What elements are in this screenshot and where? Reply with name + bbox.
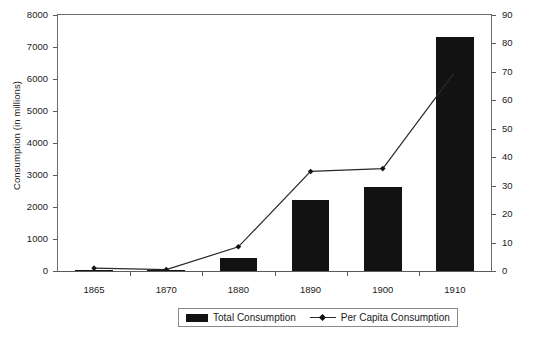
y-axis-left-tick-label: 3000	[8, 170, 48, 180]
y-axis-right-tick-mark	[492, 15, 496, 16]
y-axis-right-tick-label: 90	[502, 10, 542, 20]
bar-swatch-icon	[186, 314, 208, 322]
y-axis-right-tick-mark	[492, 243, 496, 244]
y-axis-right-tick-mark	[492, 157, 496, 158]
x-axis-tick-label: 1910	[425, 284, 485, 295]
y-axis-right-tick-mark	[492, 43, 496, 44]
y-axis-right-tick-label: 80	[502, 38, 542, 48]
chart-legend: Total Consumption Per Capita Consumption	[178, 308, 458, 327]
x-axis-tick-mark	[419, 272, 420, 276]
y-axis-left-tick-label: 2000	[8, 202, 48, 212]
y-axis-right-tick-mark	[492, 100, 496, 101]
y-axis-left-tick-label: 1000	[8, 234, 48, 244]
x-axis-tick-mark	[202, 272, 203, 276]
y-axis-right-tick-mark	[492, 186, 496, 187]
x-axis-tick-label: 1890	[281, 284, 341, 295]
legend-label-total-consumption: Total Consumption	[213, 312, 296, 323]
per-capita-markers	[91, 69, 457, 271]
y-axis-right-tick-mark	[492, 72, 496, 73]
legend-label-per-capita-consumption: Per Capita Consumption	[341, 312, 450, 323]
y-axis-left-tick-label: 6000	[8, 74, 48, 84]
y-axis-left-tick-label: 8000	[8, 10, 48, 20]
y-axis-right-tick-label: 10	[502, 238, 542, 248]
y-axis-left-tick-label: 7000	[8, 42, 48, 52]
chart-container: Consumption (in millions) 01000200030004…	[0, 0, 550, 341]
x-axis-tick-mark	[275, 272, 276, 276]
line-data-point-marker	[91, 265, 97, 271]
x-axis-tick-label: 1880	[208, 284, 268, 295]
per-capita-line	[94, 72, 455, 270]
x-axis-tick-mark	[347, 272, 348, 276]
plot-area	[57, 14, 492, 272]
y-axis-right-tick-mark	[492, 214, 496, 215]
y-axis-right-tick-mark	[492, 129, 496, 130]
y-axis-right-tick-label: 30	[502, 181, 542, 191]
line-data-point-marker	[163, 267, 169, 271]
line-series-per-capita-consumption	[58, 15, 491, 271]
y-axis-left-tick-label: 4000	[8, 138, 48, 148]
x-axis-tick-label: 1865	[64, 284, 124, 295]
legend-item-per-capita-consumption: Per Capita Consumption	[310, 312, 450, 323]
y-axis-right-tick-label: 20	[502, 209, 542, 219]
y-axis-right-tick-label: 40	[502, 152, 542, 162]
x-axis-tick-label: 1870	[136, 284, 196, 295]
line-marker-swatch-icon	[310, 313, 336, 322]
y-axis-right-tick-label: 50	[502, 124, 542, 134]
legend-item-total-consumption: Total Consumption	[186, 312, 296, 323]
y-axis-right-tick-label: 70	[502, 67, 542, 77]
x-axis-tick-label: 1900	[353, 284, 413, 295]
y-axis-right-tick-label: 60	[502, 95, 542, 105]
y-axis-left-tick-label: 5000	[8, 106, 48, 116]
x-axis-tick-mark	[130, 272, 131, 276]
x-axis: 186518701880189019001910	[0, 272, 550, 302]
